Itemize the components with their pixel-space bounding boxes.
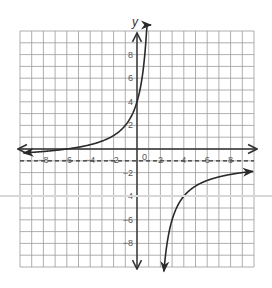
- y-tick-label: 6: [128, 73, 133, 83]
- y-tick-label: 4: [128, 97, 133, 107]
- origin-label: 0: [142, 152, 147, 162]
- x-tick-label: 4: [181, 155, 186, 165]
- x-tick-label: −6: [62, 155, 72, 165]
- y-axis-label: y: [131, 15, 139, 29]
- curve-left-branch: [24, 25, 152, 153]
- y-tick-label: −2: [123, 168, 133, 178]
- curve-right-branch: [164, 171, 253, 271]
- x-tick-label: −2: [108, 155, 118, 165]
- x-tick-label: 2: [158, 155, 163, 165]
- x-tick-label: −8: [38, 155, 48, 165]
- y-tick-label: −8: [123, 238, 133, 248]
- y-tick-label: 8: [128, 50, 133, 60]
- x-tick-label: 8: [228, 155, 233, 165]
- graph: y−8−6−4−224688642−2−4−6−80: [0, 0, 272, 288]
- x-tick-label: −4: [85, 155, 95, 165]
- x-tick-label: 6: [205, 155, 210, 165]
- y-tick-label: −6: [123, 215, 133, 225]
- scan-line-artifact: [0, 195, 272, 197]
